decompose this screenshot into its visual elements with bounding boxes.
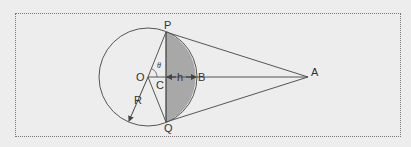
label-p: P (164, 19, 171, 31)
label-c: C (156, 79, 164, 91)
label-b: B (198, 71, 205, 83)
geometry-diagram: P Q O C B A h R θ (0, 0, 411, 147)
label-q: Q (164, 122, 173, 134)
label-h: h (177, 71, 183, 83)
label-o: O (136, 71, 145, 83)
label-theta: θ (157, 61, 161, 70)
label-a: A (311, 66, 319, 78)
radius-op (148, 32, 166, 77)
label-r: R (134, 94, 142, 106)
